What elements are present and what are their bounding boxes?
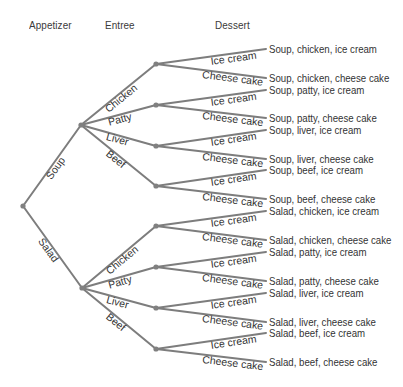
node-entree bbox=[153, 223, 158, 228]
outcome-label: Salad, chicken, cheese cake bbox=[269, 234, 391, 246]
column-header-appetizer: Appetizer bbox=[29, 19, 72, 31]
outcome-label: Soup, beef, ice cream bbox=[269, 164, 363, 176]
outcome-label: Soup, liver, ice cream bbox=[269, 124, 361, 136]
column-header-entree: Entree bbox=[105, 19, 135, 31]
node-entree bbox=[153, 305, 158, 310]
outcome-label: Soup, chicken, cheese cake bbox=[269, 72, 389, 84]
node-root bbox=[20, 203, 25, 208]
node-entree bbox=[153, 183, 158, 188]
node-entree bbox=[153, 264, 158, 269]
outcome-label: Soup, patty, cheese cake bbox=[269, 112, 377, 124]
node-appetizer bbox=[78, 122, 83, 127]
outcome-label: Soup, beef, cheese cake bbox=[269, 193, 375, 205]
outcome-label: Salad, patty, ice cream bbox=[269, 246, 367, 258]
outcome-label: Salad, patty, cheese cake bbox=[269, 275, 379, 287]
outcome-label: Salad, beef, cheese cake bbox=[269, 356, 377, 368]
column-header-dessert: Dessert bbox=[215, 19, 250, 31]
tree-diagram: AppetizerEntreeDessertSoupChickenIce cre… bbox=[0, 0, 403, 387]
outcome-label: Salad, chicken, ice cream bbox=[269, 205, 379, 217]
node-entree bbox=[153, 143, 158, 148]
outcome-label: Salad, liver, ice cream bbox=[269, 287, 364, 299]
node-appetizer bbox=[79, 285, 84, 290]
outcome-label: Salad, beef, ice cream bbox=[269, 327, 365, 339]
outcome-label: Soup, chicken, ice cream bbox=[269, 43, 377, 55]
node-entree bbox=[153, 102, 158, 107]
outcome-label: Soup, patty, ice cream bbox=[269, 84, 364, 96]
node-entree bbox=[153, 346, 158, 351]
node-entree bbox=[153, 61, 158, 66]
